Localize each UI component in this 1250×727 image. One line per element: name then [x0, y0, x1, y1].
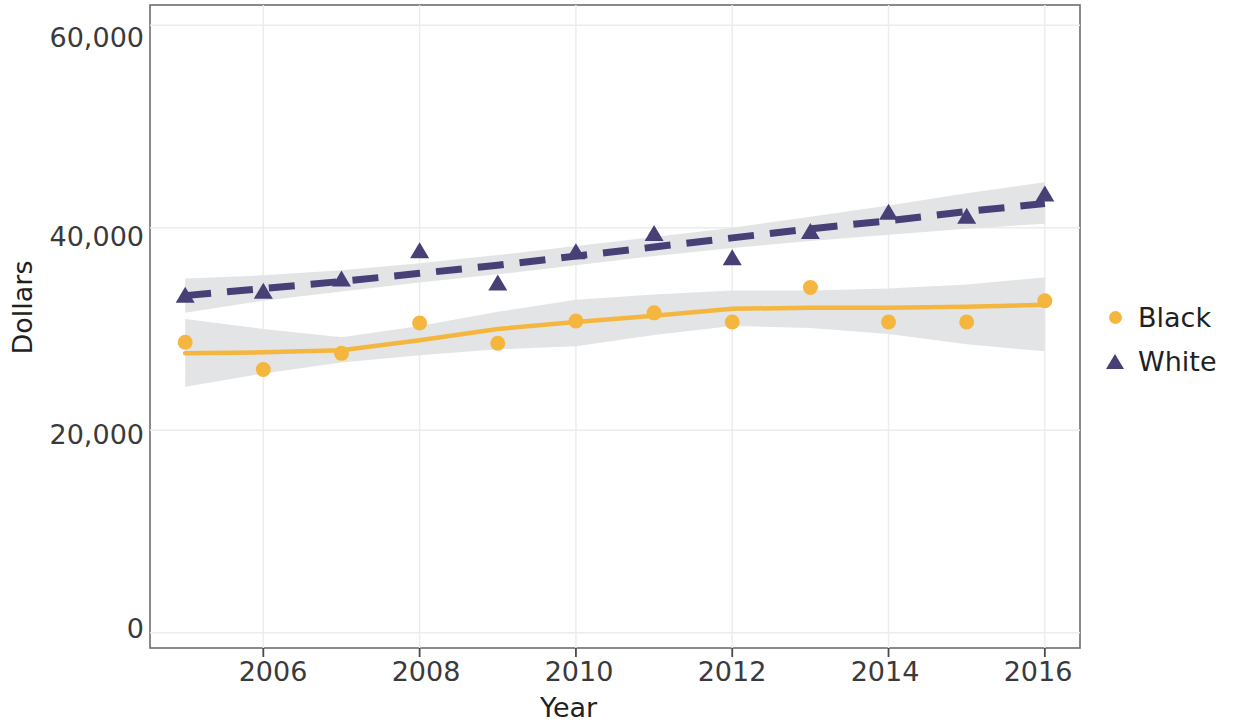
plot-area — [0, 0, 1250, 727]
x-tick-marks — [263, 648, 1045, 657]
legend-label: Black — [1138, 302, 1211, 333]
triangle-marker-icon — [1100, 354, 1130, 369]
legend-item-black[interactable]: Black — [1100, 295, 1250, 339]
chart-figure: 60,000 40,000 20,000 0 Dollars 2006 2008… — [0, 0, 1250, 727]
circle-marker-icon — [1100, 311, 1130, 324]
legend-item-white[interactable]: White — [1100, 339, 1250, 383]
legend-label: White — [1138, 346, 1217, 377]
chart-legend: Black White — [1100, 295, 1250, 383]
